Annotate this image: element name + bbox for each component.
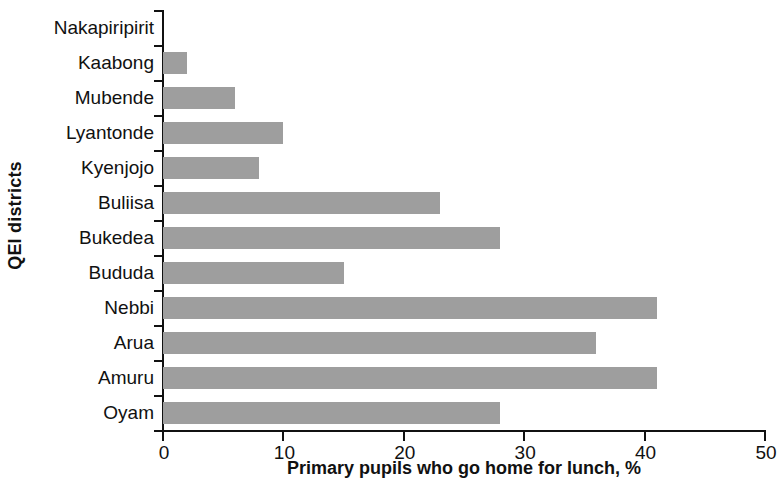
- y-axis-tick: [154, 395, 163, 397]
- bar: [163, 402, 500, 424]
- x-axis-tick: [644, 432, 646, 441]
- bar: [163, 332, 596, 354]
- x-axis-line: [162, 430, 766, 432]
- y-axis-tick: [154, 255, 163, 257]
- bar-chart: QEI districts NakapiripiritKaabongMubend…: [0, 0, 778, 487]
- y-axis-tick-label: Kaabong: [78, 45, 154, 80]
- y-axis-tick-label: Kyenjojo: [81, 150, 154, 185]
- y-axis-tick-label: Nakapiripirit: [54, 10, 154, 45]
- y-axis-tick-label: Nebbi: [104, 290, 154, 325]
- y-axis-tick-label: Bukedea: [79, 220, 154, 255]
- y-axis-tick: [154, 150, 163, 152]
- x-axis-title-label: Primary pupils who go home for lunch, %: [163, 458, 765, 479]
- y-axis-tick: [154, 325, 163, 327]
- y-axis-category-labels: NakapiripiritKaabongMubendeLyantondeKyen…: [24, 10, 160, 430]
- y-axis-tick-label: Bududa: [88, 255, 154, 290]
- bar: [163, 122, 283, 144]
- x-axis-tick: [523, 432, 525, 441]
- bar: [163, 157, 259, 179]
- y-axis-tick: [154, 10, 163, 12]
- x-axis-tick: [403, 432, 405, 441]
- y-axis-tick-label: Lyantonde: [66, 115, 154, 150]
- y-axis-tick-label: Oyam: [103, 395, 154, 430]
- bar: [163, 262, 344, 284]
- bar: [163, 227, 500, 249]
- y-axis-tick: [154, 360, 163, 362]
- y-axis-tick: [154, 220, 163, 222]
- x-axis-tick: [282, 432, 284, 441]
- y-axis-tick: [154, 45, 163, 47]
- y-axis-tick-label: Buliisa: [98, 185, 154, 220]
- y-axis-tick: [154, 290, 163, 292]
- bar: [163, 297, 657, 319]
- plot-area: 01020304050: [163, 10, 765, 430]
- bar: [163, 367, 657, 389]
- bar: [163, 87, 235, 109]
- y-axis-tick: [154, 185, 163, 187]
- y-axis-tick: [154, 80, 163, 82]
- y-axis-tick-label: Mubende: [75, 80, 154, 115]
- y-axis-tick: [154, 115, 163, 117]
- y-axis-tick-label: Arua: [114, 325, 154, 360]
- y-axis-tick-label: Amuru: [98, 360, 154, 395]
- x-axis-tick: [162, 432, 164, 441]
- y-axis-title-label: QEI districts: [5, 161, 26, 270]
- bar: [163, 192, 440, 214]
- bar: [163, 52, 187, 74]
- x-axis-tick: [764, 432, 766, 441]
